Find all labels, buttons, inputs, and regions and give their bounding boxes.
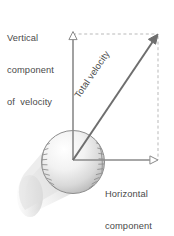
horizontal-component-label: Horizontal component of velocity [105, 167, 152, 236]
vertical-component-label: Vertical component of velocity [7, 11, 54, 130]
vertical-label-line1: Vertical [7, 33, 54, 44]
velocity-components-figure: Vertical component of velocity Horizonta… [0, 0, 174, 236]
horizontal-label-line1: Horizontal [105, 189, 152, 200]
horizontal-label-line2: component [105, 221, 152, 232]
vertical-label-line2: component [7, 65, 54, 76]
vertical-label-line3: of velocity [7, 97, 54, 108]
total-velocity-arrow [73, 34, 158, 160]
